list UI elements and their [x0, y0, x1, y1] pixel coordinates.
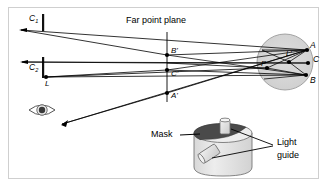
- label-c-prime: C': [171, 70, 178, 78]
- arrowhead-lower-left: [61, 120, 68, 127]
- label-light-guide-line1: Light: [277, 138, 297, 147]
- label-b-prime: B': [171, 47, 178, 55]
- label-c2: C2: [29, 63, 38, 72]
- light-guide-apparatus: [180, 118, 273, 176]
- diagram-canvas: [0, 0, 328, 191]
- label-c1: C1: [29, 14, 38, 23]
- ray-bundle-lower-cross: [62, 50, 307, 124]
- point-c-prime-dot: [165, 68, 169, 72]
- aperture-bar-c2: [42, 57, 44, 78]
- point-a-dot: [305, 48, 309, 52]
- aperture-bar-c1: [42, 14, 44, 31]
- label-b: B: [310, 76, 316, 85]
- label-a: A: [310, 41, 316, 50]
- point-l-prime-dot: [287, 60, 291, 64]
- optical-diagram-figure: C1 C2 L Far point plane B' C' A' P L' A …: [0, 0, 328, 191]
- label-far-point-plane: Far point plane: [126, 16, 186, 25]
- light-guide-upright: [220, 118, 230, 134]
- arrowhead-upper-left: [19, 28, 27, 32]
- arrowhead-axis-left: [20, 60, 28, 64]
- label-source-l: L: [45, 80, 49, 88]
- label-mask: Mask: [151, 130, 173, 139]
- label-a-prime: A': [171, 92, 178, 100]
- label-light-guide-line2: guide: [277, 151, 299, 160]
- label-l-prime: L': [286, 50, 292, 58]
- label-p: P: [261, 60, 266, 68]
- label-c: C: [313, 55, 319, 64]
- point-a-prime-dot: [165, 91, 169, 95]
- point-b-dot: [304, 73, 308, 77]
- point-b-prime-dot: [165, 53, 169, 57]
- point-c-dot: [306, 61, 310, 65]
- eye-icon: [29, 105, 55, 115]
